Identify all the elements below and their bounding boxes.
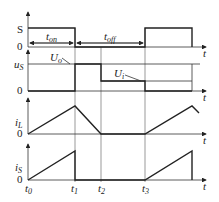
il-zero-label: 0 xyxy=(17,127,23,139)
t2-label: t2 xyxy=(98,182,105,196)
is-waveform xyxy=(28,151,192,180)
us-label: uS xyxy=(14,58,24,72)
t-on-label: ton xyxy=(46,30,57,44)
t3-label: t3 xyxy=(142,182,149,196)
t1-label: t1 xyxy=(71,182,78,196)
s-label: S xyxy=(17,23,23,35)
us-t-label: t xyxy=(203,91,207,103)
s-t-label: t xyxy=(203,47,207,59)
switching-waveform-diagram: S 0 t ton toff uS 0 t Uo Ui iL 0 t iS 0 xyxy=(0,0,219,202)
time-tick-labels: t0 t1 t2 t3 xyxy=(25,182,149,196)
time-gridlines xyxy=(75,28,145,182)
panel-inductor-current: iL 0 t xyxy=(15,98,207,146)
panel-switch-state: S 0 t ton toff xyxy=(17,12,207,59)
panel-switch-voltage: uS 0 t Uo Ui xyxy=(14,50,207,103)
panel-switch-current: iS 0 t xyxy=(15,144,207,192)
uo-annotation: Uo xyxy=(50,51,62,65)
s-zero-label: 0 xyxy=(17,40,23,52)
t-off-label: toff xyxy=(104,30,117,44)
il-waveform xyxy=(28,106,199,134)
ui-annotation: Ui xyxy=(114,67,124,81)
t0-label: t0 xyxy=(25,182,32,196)
is-zero-label: 0 xyxy=(17,173,23,185)
us-zero-label: 0 xyxy=(17,84,23,96)
us-waveform xyxy=(28,64,192,91)
is-t-label: t xyxy=(203,180,207,192)
il-t-label: t xyxy=(203,134,207,146)
